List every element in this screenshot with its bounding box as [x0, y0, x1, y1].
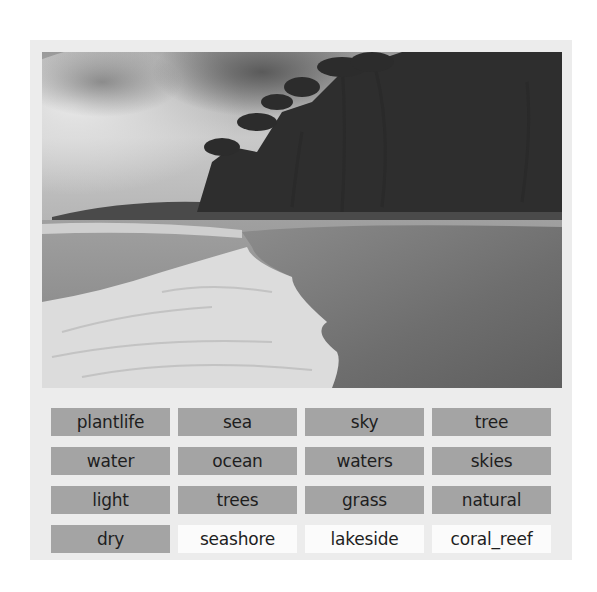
- tag-water: water: [51, 447, 170, 475]
- tag-trees: trees: [178, 486, 297, 514]
- beach-photo: [42, 52, 562, 388]
- tag-natural: natural: [432, 486, 551, 514]
- tag-dry: dry: [51, 525, 170, 553]
- tag-coral-reef: coral_reef: [432, 525, 551, 553]
- tag-seashore: seashore: [178, 525, 297, 553]
- tag-light: light: [51, 486, 170, 514]
- tag-waters: waters: [305, 447, 424, 475]
- tag-ocean: ocean: [178, 447, 297, 475]
- tag-sea: sea: [178, 408, 297, 436]
- tag-sky: sky: [305, 408, 424, 436]
- tag-skies: skies: [432, 447, 551, 475]
- tag-grass: grass: [305, 486, 424, 514]
- tag-lakeside: lakeside: [305, 525, 424, 553]
- tag-grid: plantlife sea sky tree water ocean water…: [51, 408, 552, 553]
- tag-plantlife: plantlife: [51, 408, 170, 436]
- tag-tree: tree: [432, 408, 551, 436]
